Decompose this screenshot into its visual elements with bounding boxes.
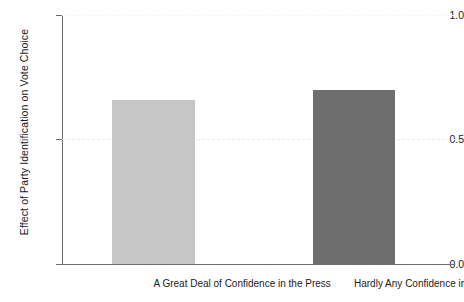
plot-area xyxy=(62,15,455,264)
bar-chart-figure: Effect of Party Identification on Vote C… xyxy=(0,0,464,302)
bar-a-great-deal-of-confidence[interactable] xyxy=(112,100,195,264)
x-axis-line xyxy=(56,264,455,265)
y-axis-title: Effect of Party Identification on Vote C… xyxy=(16,0,32,264)
gridline-1.0 xyxy=(62,15,455,16)
bar-hardly-any-confidence[interactable] xyxy=(313,90,395,264)
